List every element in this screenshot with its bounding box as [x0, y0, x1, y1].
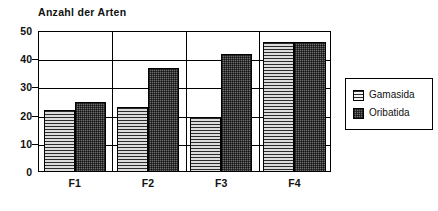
legend-entry-oribatida: Oribatida	[353, 104, 432, 122]
group-divider-2	[186, 32, 187, 171]
legend-swatch-gamasida-icon	[353, 90, 364, 101]
legend-label-oribatida: Oribatida	[369, 108, 410, 118]
plot-area	[38, 31, 331, 172]
gridline-y-10	[39, 145, 330, 146]
gridline-y-40	[39, 60, 330, 61]
gridline-y-20	[39, 117, 330, 118]
legend-swatch-oribatida-icon	[353, 108, 364, 119]
chart-title: Anzahl der Arten	[38, 6, 126, 18]
group-divider-3	[259, 32, 260, 171]
group-divider-1	[112, 32, 113, 171]
x-tick-label-f3: F3	[215, 178, 227, 189]
gridline-y-30	[39, 88, 330, 89]
chart-legend: GamasidaOribatida	[345, 78, 433, 130]
x-tick-label-f2: F2	[142, 178, 154, 189]
bar-chart-figure: Anzahl der Arten 01020304050 F1F2F3F4 Ga…	[0, 0, 438, 211]
legend-entry-gamasida: Gamasida	[353, 86, 432, 104]
legend-label-gamasida: Gamasida	[369, 90, 415, 100]
x-axis-tick-labels: F1F2F3F4	[38, 178, 331, 196]
x-tick-label-f4: F4	[288, 178, 300, 189]
x-tick-label-f1: F1	[68, 178, 80, 189]
